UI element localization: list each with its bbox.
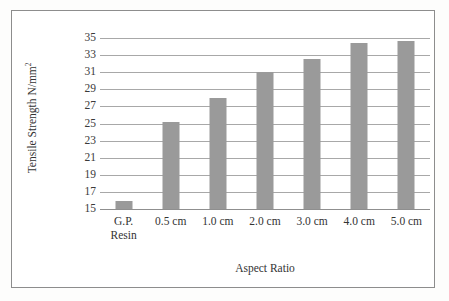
x-axis-tick-label: G.P.Resin [100, 214, 147, 242]
bar-slot [383, 38, 430, 209]
bar-slot [336, 38, 383, 209]
y-axis-title-superscript: 2 [24, 62, 33, 66]
x-axis-tick-label-line1: 0.5 cm [155, 215, 186, 227]
x-axis-tick-label-line1: 5.0 cm [391, 215, 422, 227]
x-axis-tick-label-line1: 1.0 cm [202, 215, 233, 227]
bar-slot [147, 38, 194, 209]
x-axis-tick-label: 4.0 cm [336, 214, 383, 228]
bar-slot [194, 38, 241, 209]
y-axis-tick-label: 15 [62, 203, 96, 215]
figure-container: Tensile Strength N/mm2 15171921232527293… [0, 0, 449, 301]
bar-slot [289, 38, 336, 209]
x-axis-tick-label: 5.0 cm [383, 214, 430, 228]
bar[interactable] [115, 201, 132, 209]
x-axis-tick-label-line1: 3.0 cm [296, 215, 327, 227]
x-axis-tick-label: 0.5 cm [147, 214, 194, 228]
bar[interactable] [162, 122, 179, 209]
y-axis-tick-label: 27 [62, 101, 96, 113]
x-axis-line [100, 209, 430, 210]
y-axis-tick-label: 21 [62, 152, 96, 164]
bar[interactable] [351, 43, 368, 209]
x-axis-tick-label: 1.0 cm [194, 214, 241, 228]
bar-slot [241, 38, 288, 209]
plot-area [100, 38, 430, 209]
y-axis-title-text: Tensile Strength N/mm [26, 66, 38, 173]
y-axis-tick-label: 25 [62, 118, 96, 130]
bar[interactable] [209, 98, 226, 209]
y-axis-tick-label: 31 [62, 66, 96, 78]
x-axis-tick-label: 2.0 cm [241, 214, 288, 228]
bar[interactable] [304, 59, 321, 209]
x-axis-tick-label-line1: 2.0 cm [249, 215, 280, 227]
y-axis-tick-label: 33 [62, 49, 96, 61]
y-axis-tick-label: 29 [62, 84, 96, 96]
y-axis-title: Tensile Strength N/mm2 [24, 38, 38, 198]
x-axis-title: Aspect Ratio [100, 262, 430, 274]
x-axis-tick-label-line1: G.P. [114, 215, 133, 227]
bar[interactable] [398, 41, 415, 209]
y-axis-tick-label: 35 [62, 32, 96, 44]
x-axis-tick-label: 3.0 cm [289, 214, 336, 228]
figure-frame-border: Tensile Strength N/mm2 15171921232527293… [11, 10, 435, 288]
y-axis-tick-label: 19 [62, 169, 96, 181]
x-axis-tick-label-line2: Resin [100, 228, 147, 242]
bar[interactable] [256, 72, 273, 209]
bar-slot [100, 38, 147, 209]
x-axis-tick-label-line1: 4.0 cm [344, 215, 375, 227]
y-axis-tick-label: 23 [62, 135, 96, 147]
y-axis-tick-label: 17 [62, 186, 96, 198]
x-axis-tick-labels: G.P.Resin0.5 cm1.0 cm2.0 cm3.0 cm4.0 cm5… [100, 214, 430, 258]
y-axis-tick-labels: 1517192123252729313335 [58, 38, 96, 209]
